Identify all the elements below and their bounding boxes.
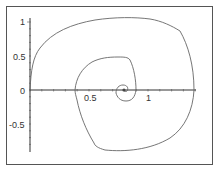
x-tick-label-1: 1 — [146, 93, 151, 103]
spiral-center-point — [122, 88, 125, 91]
y-tick-label-neg-0.5: -0.5 — [9, 120, 25, 130]
x-tick-label-0.5: 0.5 — [84, 93, 97, 103]
spiral-plot: 1 0.5 0 -0.5 0.5 1 — [0, 0, 220, 171]
spiral-curve — [30, 18, 194, 151]
y-tick-label-0: 0 — [20, 86, 25, 96]
y-tick-label-0.5: 0.5 — [13, 52, 26, 62]
y-tick-label-1: 1 — [20, 17, 25, 27]
